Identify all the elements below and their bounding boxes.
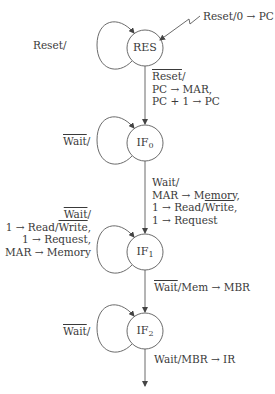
state-if1-label: IF1 — [127, 245, 163, 259]
state-res-label: RES — [127, 41, 163, 54]
transition-if0-if1-action-2: 1 → Read/Write, — [152, 201, 240, 214]
state-if2-name: IF — [136, 324, 148, 337]
transition-if0-if1-label: Wait/ MAR → Memory, 1 → Read/Write, 1 → … — [152, 176, 240, 226]
transition-if0-if1-action-1: MAR → Memory, — [152, 189, 240, 202]
self-loop-if1-action-1: 1 → Read/Write, — [0, 221, 91, 234]
self-loop-if1-action-3: MAR → Memory — [0, 246, 91, 259]
state-if0-name: IF — [136, 136, 148, 149]
transition-if0-if1-condition: Wait/ — [152, 176, 240, 189]
self-loop-if1-label: Wait/ 1 → Read/Write, 1 → Request, MAR →… — [0, 208, 91, 258]
state-if0-label: IF0 — [127, 136, 163, 150]
transition-if2-out-label: Wait/MBR → IR — [154, 353, 235, 366]
transition-if1-if2-action: /Mem → MBR — [178, 281, 250, 293]
condition-suffix: / — [87, 135, 91, 147]
transition-res-if0-action-2: PC + 1 → PC — [152, 95, 220, 108]
transition-res-if0-action-1: PC → MAR, — [152, 83, 220, 96]
initial-transition-label: Reset/0 → PC — [203, 10, 274, 23]
action-write-negated: Write — [59, 221, 88, 233]
self-loop-if1-action-2: 1 → Request, — [0, 233, 91, 246]
state-if2-subscript: 2 — [148, 329, 153, 338]
condition-wait-negated: Wait — [63, 135, 87, 147]
state-if0-subscript: 0 — [148, 141, 153, 150]
state-if1-subscript: 1 — [148, 250, 153, 259]
action-comma: , — [234, 201, 237, 213]
action-comma: , — [88, 221, 91, 233]
transition-if0-if1-action-3: 1 → Request — [152, 214, 240, 227]
self-loop-res-label: Reset/ — [33, 39, 66, 52]
condition-reset-negated: Reset — [152, 70, 182, 82]
condition-wait-negated: Wait — [64, 208, 88, 220]
state-if2-label: IF2 — [127, 324, 163, 338]
condition-wait-negated: Wait — [63, 325, 87, 337]
condition-suffix: / — [87, 325, 91, 337]
self-loop-if0-label: Wait/ — [63, 135, 90, 148]
transition-res-if0-condition: Reset/ — [152, 70, 220, 83]
transition-res-if0-label: Reset/ PC → MAR, PC + 1 → PC — [152, 70, 220, 108]
condition-suffix: / — [182, 70, 186, 82]
state-if1-name: IF — [136, 245, 148, 258]
action-text: 1 → Read/ — [6, 221, 59, 233]
action-write-negated: Write — [205, 201, 234, 213]
initial-transition-arrow — [160, 16, 200, 40]
condition-suffix: / — [87, 208, 91, 220]
state-res-name: RES — [133, 41, 157, 54]
transition-if1-if2-label: Wait/Mem → MBR — [154, 281, 250, 294]
action-text: 1 → Read/ — [152, 201, 205, 213]
self-loop-if2-label: Wait/ — [63, 325, 90, 338]
self-loop-if1-condition: Wait/ — [0, 208, 91, 221]
condition-wait-negated: Wait — [154, 281, 178, 293]
